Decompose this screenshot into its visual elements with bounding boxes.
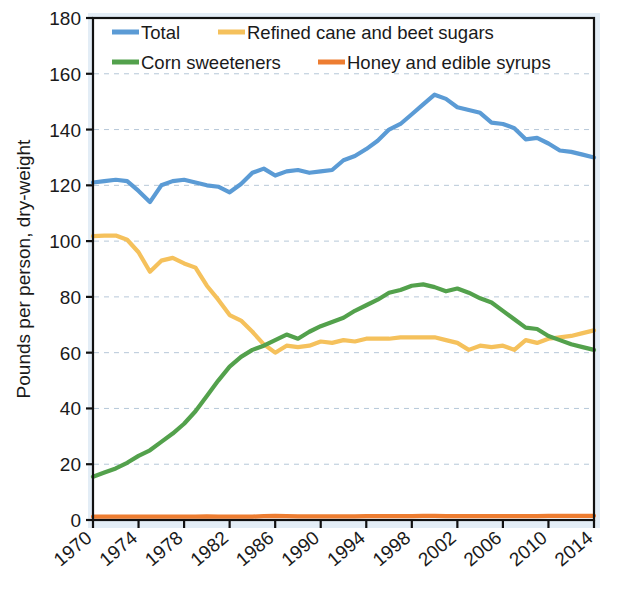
- x-tick-label: 2014: [551, 527, 597, 571]
- legend-label-corn-sweeteners: Corn sweeteners: [141, 52, 281, 73]
- legend-label-total: Total: [141, 22, 180, 43]
- x-tick-labels: 1970197419781982198619901994199820022006…: [50, 527, 597, 571]
- y-tick-label: 120: [49, 175, 81, 196]
- plot-background: [93, 18, 594, 520]
- y-tick-label: 140: [49, 120, 81, 141]
- y-axis-label: Pounds per person, dry-weight: [13, 139, 34, 398]
- y-tick-label: 60: [60, 343, 81, 364]
- y-tick-label: 40: [60, 398, 81, 419]
- x-tick-label: 1970: [50, 527, 96, 570]
- x-tick-label: 1998: [369, 527, 415, 570]
- legend-label-honey-and-edible-syrups: Honey and edible syrups: [347, 52, 551, 73]
- y-tick-label: 80: [60, 287, 81, 308]
- x-tick-label: 2006: [460, 527, 506, 570]
- legend-label-refined-cane-and-beet-sugars: Refined cane and beet sugars: [247, 22, 494, 43]
- x-tick-label: 1974: [95, 527, 141, 571]
- y-tick-label: 0: [70, 510, 81, 531]
- x-tick-label: 2010: [505, 527, 551, 570]
- chart-canvas: 020406080100120140160180 197019741978198…: [0, 0, 621, 589]
- y-tick-label: 20: [60, 454, 81, 475]
- series-line-honey-and-edible-syrups: [93, 516, 594, 517]
- y-tick-labels: 020406080100120140160180: [49, 8, 81, 531]
- y-tick-label: 160: [49, 64, 81, 85]
- y-tick-label: 100: [49, 231, 81, 252]
- x-tick-label: 1990: [277, 527, 323, 570]
- x-tick-label: 2002: [414, 527, 460, 570]
- x-tick-label: 1994: [323, 527, 369, 571]
- x-tick-label: 1982: [186, 527, 232, 570]
- sweetener-consumption-chart: 020406080100120140160180 197019741978198…: [0, 0, 621, 589]
- x-tick-label: 1986: [232, 527, 278, 570]
- y-tick-label: 180: [49, 8, 81, 29]
- x-tick-label: 1978: [141, 527, 187, 570]
